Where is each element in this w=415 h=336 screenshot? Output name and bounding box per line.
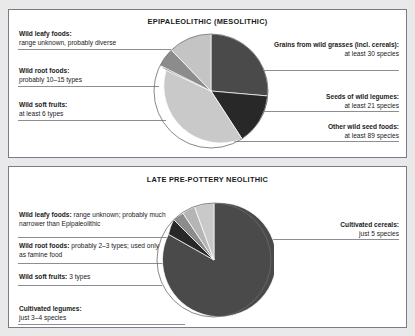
leader-line-grains-wild-grasses xyxy=(256,70,399,71)
label-wild-soft-fruits-bottom-rest: 3 types xyxy=(69,273,90,280)
label-cultivated-legumes-bold: Cultivated legumes: xyxy=(19,305,82,312)
label-grains-from-wild-grasses-rest: at least 30 species xyxy=(344,50,399,57)
label-cultivated-cereals: Cultivated cereals: just 5 species xyxy=(261,221,399,238)
label-wild-root-foods-top: Wild root foods: probably 10–15 types xyxy=(19,67,159,84)
label-wild-root-foods-bottom-bold: Wild root foods: xyxy=(19,242,69,249)
label-grains-from-wild-grasses-bold: Grains from wild grasses (incl. cereals)… xyxy=(274,41,399,48)
label-other-wild-seed-foods-rest: at least 89 species xyxy=(344,132,399,139)
label-seeds-of-wild-legumes: Seeds of wild legumes: at least 21 speci… xyxy=(261,93,399,110)
leader-line-wild-root-foods-bottom xyxy=(18,263,165,264)
leader-line-wild-leafy-foods-top xyxy=(18,49,171,50)
pie-chart-epipaleolithic xyxy=(151,31,271,151)
label-wild-leafy-foods-top: Wild leafy foods: range unknown, probabl… xyxy=(19,30,171,47)
label-wild-root-foods-top-rest: probably 10–15 types xyxy=(19,76,82,83)
label-cultivated-cereals-rest: just 5 species xyxy=(359,230,399,237)
leader-line-cultivated-legumes xyxy=(18,324,185,325)
panel-late-pre-pottery-neolithic: LATE PRE-POTTERY NEOLITHIC xyxy=(8,166,407,328)
label-wild-leafy-foods-top-rest: range unknown, probably diverse xyxy=(19,39,116,46)
leader-line-seeds-wild-legumes xyxy=(259,111,399,112)
label-wild-root-foods-top-bold: Wild root foods: xyxy=(19,67,69,74)
label-cultivated-legumes: Cultivated legumes: just 3–4 species xyxy=(19,305,169,322)
label-wild-leafy-foods-bottom-bold: Wild leafy foods: xyxy=(19,211,72,218)
label-wild-leafy-foods-bottom: Wild leafy foods: range unknown; probabl… xyxy=(19,211,169,228)
label-wild-leafy-foods-top-bold: Wild leafy foods: xyxy=(19,30,72,37)
leader-line-wild-leafy-foods-bottom xyxy=(18,237,170,238)
label-cultivated-cereals-bold: Cultivated cereals: xyxy=(340,221,399,228)
leader-line-cultivated-cereals xyxy=(264,239,399,240)
label-other-wild-seed-foods-bold: Other wild seed foods: xyxy=(328,123,399,130)
label-cultivated-legumes-rest: just 3–4 species xyxy=(19,314,66,321)
label-wild-soft-fruits-bottom: Wild soft fruits: 3 types xyxy=(19,273,167,282)
label-wild-soft-fruits-top-rest: at least 6 types xyxy=(19,110,63,117)
leader-line-wild-soft-fruits-bottom xyxy=(18,285,162,286)
label-wild-root-foods-bottom: Wild root foods: probably 2–3 types; use… xyxy=(19,242,167,259)
label-other-wild-seed-foods: Other wild seed foods: at least 89 speci… xyxy=(261,123,399,140)
leader-line-wild-root-foods-top xyxy=(18,86,159,87)
label-seeds-of-wild-legumes-bold: Seeds of wild legumes: xyxy=(326,93,399,100)
panel-title-late-pre-pottery-neolithic: LATE PRE-POTTERY NEOLITHIC xyxy=(9,175,406,184)
pie-slice-grains-from-wild-grasses xyxy=(211,34,268,96)
pie-chart-late-pre-pottery-neolithic xyxy=(154,200,274,320)
label-seeds-of-wild-legumes-rest: at least 21 species xyxy=(344,102,399,109)
label-grains-from-wild-grasses: Grains from wild grasses (incl. cereals)… xyxy=(261,41,399,58)
panel-epipaleolithic: EPIPALEOLITHIC (MESOLITHIC) xyxy=(8,9,407,158)
label-wild-soft-fruits-bottom-bold: Wild soft fruits: xyxy=(19,273,67,280)
panel-title-epipaleolithic: EPIPALEOLITHIC (MESOLITHIC) xyxy=(9,17,406,26)
label-wild-soft-fruits-top-bold: Wild soft fruits: xyxy=(19,101,67,108)
figure-two-pie-charts: EPIPALEOLITHIC (MESOLITHIC) xyxy=(0,0,415,336)
leader-line-wild-soft-fruits-top xyxy=(18,120,166,121)
label-wild-soft-fruits-top: Wild soft fruits: at least 6 types xyxy=(19,101,159,118)
